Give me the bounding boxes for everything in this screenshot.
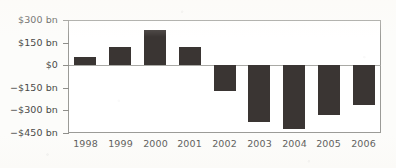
bar-2000 <box>144 30 166 65</box>
y-axis-tick <box>63 43 69 44</box>
x-axis-label-2006: 2006 <box>346 139 381 149</box>
chart-figure: $300 bn$150 bn$0−$150 bn−$300 bn−$450 bn… <box>0 0 396 168</box>
y-axis-label: −$300 bn <box>10 105 58 115</box>
bar-2003 <box>248 65 270 122</box>
y-axis-label: −$450 bn <box>10 128 58 138</box>
y-axis-label: $0 <box>46 60 58 70</box>
y-axis-label: $300 bn <box>18 15 58 25</box>
y-axis-tick <box>63 65 69 66</box>
bar-2004 <box>283 65 305 129</box>
bar-2006 <box>353 65 375 105</box>
bar-1999 <box>109 47 131 65</box>
y-axis-label: −$150 bn <box>10 83 58 93</box>
y-axis-tick <box>63 110 69 111</box>
bar-2002 <box>214 65 236 91</box>
x-axis-label-2003: 2003 <box>242 139 277 149</box>
bar-2005 <box>318 65 340 115</box>
y-axis-tick <box>63 20 69 21</box>
y-axis-tick <box>63 133 69 134</box>
x-axis-label-2001: 2001 <box>172 139 207 149</box>
y-axis-label: $150 bn <box>18 38 58 48</box>
x-axis-label-2002: 2002 <box>207 139 242 149</box>
x-axis-label-2005: 2005 <box>311 139 346 149</box>
bar-2001 <box>179 47 201 65</box>
x-axis-label-2004: 2004 <box>277 139 312 149</box>
x-axis-label-1998: 1998 <box>68 139 103 149</box>
x-axis-label-2000: 2000 <box>138 139 173 149</box>
x-axis-label-1999: 1999 <box>103 139 138 149</box>
bar-1998 <box>74 57 96 65</box>
y-axis-tick <box>63 88 69 89</box>
